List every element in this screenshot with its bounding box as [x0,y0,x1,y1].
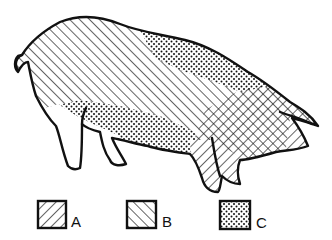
legend-item-a [38,201,66,228]
legend-swatch-a [38,201,66,228]
legend-label-b: B [162,214,172,229]
legend-item-c [220,201,250,229]
pig-diagram [0,0,332,240]
legend-label-c: C [256,215,267,230]
legend-swatch-b [127,201,156,228]
legend-swatch-c [220,201,250,229]
legend-label-a: A [71,214,81,229]
legend-item-b [127,201,156,228]
legend [38,201,250,229]
